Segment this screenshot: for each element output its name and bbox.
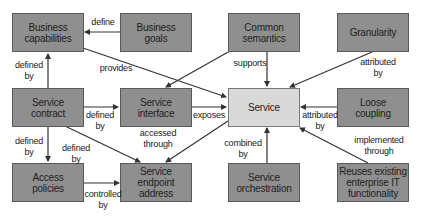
edge-semantics-interface (166, 51, 230, 87)
node-service-interface: Service interface (120, 88, 192, 127)
node-reuses-existing-it: Reuses existing enterprise IT functional… (337, 163, 409, 202)
node-service-contract: Service contract (12, 88, 84, 127)
node-business-goals: Business goals (120, 13, 192, 52)
node-label: Reuses existing enterprise IT functional… (339, 166, 407, 199)
node-label: Common semantics (242, 22, 285, 44)
node-loose-coupling: Loose coupling (337, 88, 409, 127)
label-exposes: exposes (192, 110, 226, 121)
node-label: Service interface (138, 97, 175, 119)
label-provides: provides (97, 63, 135, 74)
label-implemented-through: implemented through (352, 135, 406, 156)
node-label: Service orchestration (236, 172, 291, 194)
node-label: Loose coupling (355, 97, 391, 119)
node-label: Business capabilities (24, 22, 71, 44)
label-accessed-through: accessed through (138, 128, 178, 149)
node-label: Granularity (350, 27, 397, 38)
label-defined-by-interface: defined by (85, 110, 115, 131)
node-label: Service (248, 102, 280, 113)
node-label: Access policies (32, 172, 64, 194)
label-combined-by: combined by (223, 138, 263, 159)
label-defined-by-access: defined by (14, 136, 44, 157)
label-attributed-by-granularity: attributed by (354, 57, 402, 78)
node-service-orchestration: Service orchestration (228, 163, 300, 202)
node-access-policies: Access policies (12, 163, 84, 202)
node-common-semantics: Common semantics (228, 13, 300, 52)
label-attributed-by-loose: attributed by (300, 110, 340, 131)
node-service-endpoint-address: Service endpoint address (120, 163, 192, 202)
label-define: define (90, 17, 116, 28)
node-service: Service (228, 88, 300, 127)
label-controlled-by: controlled by (84, 189, 122, 210)
node-granularity: Granularity (337, 13, 409, 52)
node-label: Business goals (137, 22, 176, 44)
node-label: Service contract (31, 97, 65, 119)
soa-concept-diagram: Business capabilities Business goals Com… (0, 0, 421, 219)
node-label: Service endpoint address (138, 166, 175, 199)
node-business-capabilities: Business capabilities (12, 13, 84, 52)
label-defined-by-capabilities: defined by (14, 60, 44, 81)
label-supports: supports (232, 58, 268, 69)
label-defined-by-endpoint: defined by (61, 143, 91, 164)
